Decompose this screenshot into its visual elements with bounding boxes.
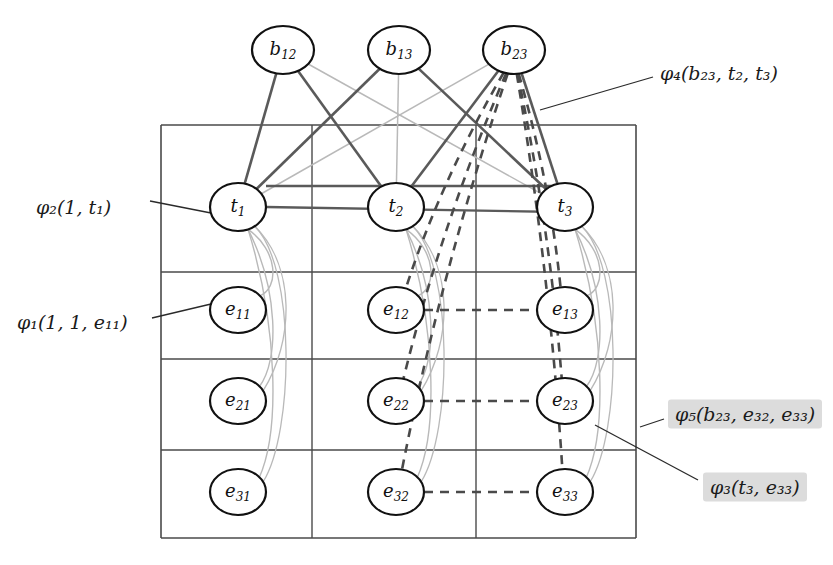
node-e32[interactable] — [368, 469, 424, 515]
leader-line-phi4 — [540, 77, 653, 110]
edge-b13-t2 — [396, 74, 398, 183]
edge-arc-t1-e31 — [255, 226, 286, 481]
annotation-text-phi1: φ₁(1, 1, e₁₁) — [17, 311, 128, 333]
edge-b12-t1 — [245, 73, 277, 183]
edge-arc-t3-e33 — [582, 226, 613, 481]
leader-line-phi2 — [150, 201, 211, 213]
node-layer — [210, 26, 593, 515]
edge-t2-e12 — [406, 229, 431, 296]
node-t1[interactable] — [210, 183, 266, 231]
node-e13[interactable] — [537, 287, 593, 333]
edge-b23-t3 — [522, 73, 558, 184]
edge-t1-e31 — [248, 229, 273, 478]
node-e22[interactable] — [368, 378, 424, 424]
node-b12[interactable] — [252, 26, 314, 74]
edge-arc-t2-e32 — [413, 226, 444, 481]
node-e12[interactable] — [368, 287, 424, 333]
annotation-phi2: φ₂(1, t₁) — [36, 198, 111, 217]
edge-b13-t1 — [256, 69, 379, 189]
edge-b12-t3 — [308, 64, 541, 194]
annotation-phi1: φ₁(1, 1, e₁₁) — [17, 313, 128, 332]
node-e21[interactable] — [210, 378, 266, 424]
leader-line-phi3 — [595, 425, 698, 480]
dashed-edge-b23-e12 — [406, 73, 504, 289]
annotation-phi4: φ₄(b₂₃, t₂, t₃) — [660, 64, 778, 83]
annotation-phi5: φ₅(b₂₃, e₃₂, e₃₃) — [668, 405, 822, 424]
edge-b12-t2 — [298, 71, 381, 187]
dashed-edge-b23-e22 — [403, 73, 506, 379]
annotation-text-phi5: φ₅(b₂₃, e₃₂, e₃₃) — [668, 400, 822, 429]
annotation-text-phi4: φ₄(b₂₃, t₂, t₃) — [660, 62, 778, 84]
node-e33[interactable] — [537, 469, 593, 515]
figure-canvas: b12b13b23t1t2t3e11e12e13e21e22e23e31e32e… — [0, 0, 833, 565]
edge-t3-e33 — [575, 229, 600, 478]
annotation-text-phi2: φ₂(1, t₁) — [36, 196, 111, 218]
node-b13[interactable] — [368, 26, 430, 74]
dashed-edge-layer — [402, 73, 562, 492]
node-b23[interactable] — [483, 26, 545, 74]
annotation-phi3: φ₃(t₃, e₃₃) — [703, 478, 807, 497]
node-e11[interactable] — [210, 287, 266, 333]
leader-line-phi5 — [640, 419, 664, 427]
node-t3[interactable] — [537, 183, 593, 231]
edge-t1-e11 — [248, 229, 273, 296]
node-t2[interactable] — [368, 183, 424, 231]
edge-t3-e13 — [575, 229, 600, 296]
node-e31[interactable] — [210, 469, 266, 515]
annotation-text-phi3: φ₃(t₃, e₃₃) — [703, 473, 807, 502]
node-e23[interactable] — [537, 378, 593, 424]
